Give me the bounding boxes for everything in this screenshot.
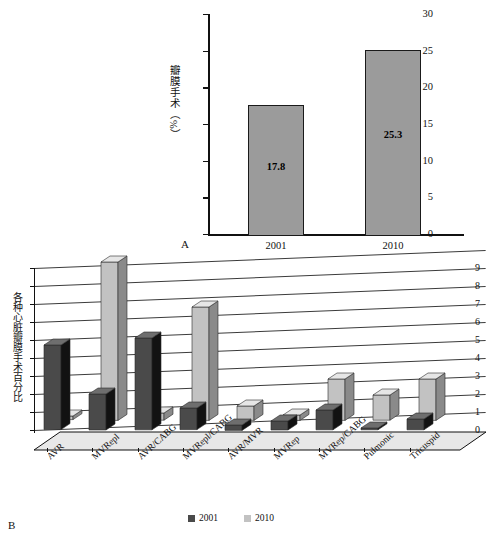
- bar-2001-MVRepl: [89, 394, 106, 430]
- y-tick: [30, 358, 35, 359]
- y-tick: [30, 394, 35, 395]
- y-tick: [30, 430, 35, 431]
- panel-a-letter: A: [181, 238, 189, 250]
- bar-2010-Pulmonic: [373, 395, 390, 420]
- bar-2001-AVR: [44, 345, 61, 430]
- x-tick: [183, 448, 184, 452]
- y-tick-label: 2: [475, 389, 480, 399]
- panel-a-x-axis: [208, 234, 464, 236]
- y-tick: [30, 322, 35, 323]
- y-tick: [30, 376, 35, 377]
- y-tick: [30, 286, 35, 287]
- y-tick-label: 5: [428, 192, 433, 203]
- y-tick-label: 25: [423, 45, 434, 56]
- bar-2001-Pulmonic: [361, 428, 378, 430]
- panel-b-chart: 0123456789 AVRMVReplAVR/CABGMVRepl/CABGA…: [0, 262, 497, 552]
- x-tick: [138, 448, 139, 452]
- y-tick-label: 1: [475, 407, 480, 417]
- y-tick: [30, 304, 35, 305]
- bar-2001-MVRep: [271, 421, 288, 430]
- panel-b-y-axis: [34, 268, 35, 433]
- y-tick-label: 0: [475, 425, 480, 435]
- x-label-2001: 2001: [250, 240, 302, 251]
- panel-b-plot-area: 0123456789 AVRMVReplAVR/CABGMVRepl/CABGA…: [34, 268, 486, 444]
- bar-2001-MVRep/CABG: [316, 410, 333, 430]
- panel-a-y-axis-label: 瓣膜手术（%）: [163, 65, 179, 140]
- x-tick: [364, 448, 365, 452]
- y-tick: [203, 87, 208, 88]
- panel-a-chart: 瓣膜手术（%） 051015202530 17.825.3 20012010 A: [0, 0, 497, 258]
- y-tick-label: 4: [475, 353, 480, 363]
- bar-2001-MVRepl/CABG: [180, 408, 197, 430]
- y-tick: [30, 268, 35, 269]
- legend-swatch: [188, 515, 195, 522]
- panel-b-legend: 20012010: [188, 513, 274, 523]
- bar-2001-AVR/MVR: [225, 425, 242, 430]
- legend-item-2010: 2010: [244, 513, 274, 523]
- panel-a-y-axis: [208, 14, 210, 236]
- y-tick-label: 6: [475, 317, 480, 327]
- legend-label: 2001: [199, 513, 218, 523]
- y-tick-label: 8: [475, 281, 480, 291]
- panel-a-plot-area: 051015202530 17.825.3 20012010: [208, 14, 440, 236]
- y-tick: [30, 340, 35, 341]
- y-tick: [203, 51, 208, 52]
- x-tick: [92, 448, 93, 452]
- x-tick: [410, 448, 411, 452]
- y-tick-label: 3: [475, 371, 480, 381]
- panel-b-y-axis-label: 各种心脏瓣膜手术百分比: [6, 292, 21, 402]
- y-tick-label: 10: [423, 155, 434, 166]
- y-tick: [203, 124, 208, 125]
- y-tick: [203, 14, 208, 15]
- legend-item-2001: 2001: [188, 513, 218, 523]
- y-tick-label: 7: [475, 299, 480, 309]
- panel-b-letter: B: [8, 519, 15, 531]
- legend-label: 2010: [255, 513, 274, 523]
- bar-value-label: 17.8: [249, 161, 303, 172]
- y-tick: [203, 161, 208, 162]
- x-label-2010: 2010: [367, 240, 419, 251]
- bar-2001: 17.8: [248, 105, 304, 236]
- bar-2010: 25.3: [365, 50, 421, 236]
- bar-2001-AVR/CABG: [135, 338, 152, 430]
- y-tick: [203, 197, 208, 198]
- y-tick: [30, 412, 35, 413]
- y-tick-label: 20: [423, 82, 434, 93]
- y-tick-label: 9: [475, 263, 480, 273]
- bar-2001-Tricuspid: [407, 419, 424, 430]
- x-tick: [228, 448, 229, 452]
- bar-value-label: 25.3: [366, 129, 420, 140]
- y-tick-label: 30: [423, 9, 434, 20]
- x-tick: [47, 448, 48, 452]
- y-tick-label: 5: [475, 335, 480, 345]
- legend-swatch: [244, 515, 251, 522]
- y-tick: [203, 234, 208, 235]
- y-tick-label: 15: [423, 119, 434, 130]
- y-tick-label: 0: [428, 229, 433, 240]
- x-tick: [319, 448, 320, 452]
- x-tick: [274, 448, 275, 452]
